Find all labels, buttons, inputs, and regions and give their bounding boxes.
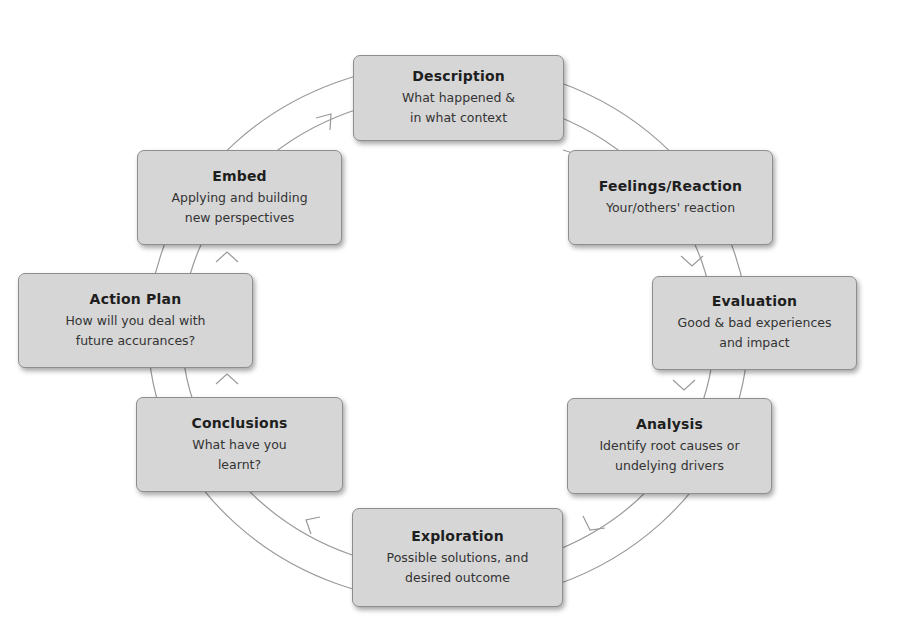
stage-title: Embed	[212, 168, 267, 184]
stage-analysis: Analysis Identify root causes or undelyi…	[567, 398, 772, 494]
stage-description-text: Good & bad experiences and impact	[678, 313, 832, 353]
stage-evaluation: Evaluation Good & bad experiences and im…	[652, 276, 857, 370]
stage-title: Description	[412, 68, 505, 84]
stage-feelings-reaction: Feelings/Reaction Your/others' reaction	[568, 150, 773, 245]
stage-exploration: Exploration Possible solutions, and desi…	[352, 508, 563, 607]
reflective-cycle-diagram: Description What happened & in what cont…	[0, 0, 907, 638]
stage-title: Feelings/Reaction	[599, 178, 743, 194]
stage-embed: Embed Applying and building new perspect…	[137, 150, 342, 245]
stage-title: Exploration	[411, 528, 504, 544]
stage-conclusions: Conclusions What have you learnt?	[136, 397, 343, 492]
stage-title: Action Plan	[90, 291, 182, 307]
stage-description-text: Your/others' reaction	[606, 198, 735, 218]
stage-description-text: Identify root causes or undelying driver…	[599, 436, 739, 476]
stage-title: Analysis	[636, 416, 703, 432]
stage-description: Description What happened & in what cont…	[353, 55, 564, 141]
stage-description-text: What have you learnt?	[192, 435, 286, 475]
stage-action-plan: Action Plan How will you deal with futur…	[18, 273, 253, 368]
stage-description-text: Possible solutions, and desired outcome	[387, 548, 529, 588]
stage-title: Conclusions	[191, 415, 287, 431]
stage-title: Evaluation	[712, 293, 797, 309]
stage-description-text: What happened & in what context	[402, 88, 515, 128]
stage-description-text: How will you deal with future accurances…	[65, 311, 205, 351]
stage-description-text: Applying and building new perspectives	[171, 188, 307, 228]
